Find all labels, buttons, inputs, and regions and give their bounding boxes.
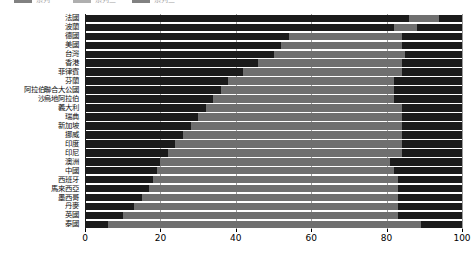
x-axis-tick-label-20: 20 bbox=[155, 233, 166, 243]
bar-segment-2 bbox=[421, 221, 462, 229]
bar-row[interactable] bbox=[85, 68, 462, 77]
legend-swatch-icon bbox=[73, 0, 91, 3]
bar-segment-2 bbox=[394, 77, 462, 85]
x-axis-tick-0 bbox=[85, 229, 86, 232]
bar-segment-1 bbox=[134, 203, 398, 211]
legend-item-2[interactable]: 系列三 bbox=[132, 0, 175, 4]
bar-segment-2 bbox=[390, 158, 462, 166]
legend-item-1[interactable]: 系列二 bbox=[73, 0, 116, 4]
chart-container: 系列一系列二系列三 法國波蘭德國美國台灣香港菲律賓芬蘭阿拉伯聯合大公國沙烏地阿拉… bbox=[0, 0, 471, 257]
bar-segment-0 bbox=[85, 122, 191, 130]
bar-segment-2 bbox=[402, 104, 462, 112]
gridline-100 bbox=[462, 14, 463, 229]
bar-row[interactable] bbox=[85, 23, 462, 32]
bar-segment-1 bbox=[228, 77, 394, 85]
bar-row[interactable] bbox=[85, 166, 462, 175]
bar-segment-1 bbox=[213, 95, 394, 103]
bar-segment-2 bbox=[398, 176, 462, 184]
bar-row[interactable] bbox=[85, 184, 462, 193]
bar-row[interactable] bbox=[85, 95, 462, 104]
x-axis-tick-80 bbox=[387, 229, 388, 232]
bar-row[interactable] bbox=[85, 41, 462, 50]
bar-row[interactable] bbox=[85, 59, 462, 68]
y-axis-category-labels: 法國波蘭德國美國台灣香港菲律賓芬蘭阿拉伯聯合大公國沙烏地阿拉伯義大利瑞典新加坡挪… bbox=[0, 14, 82, 229]
bar-segment-0 bbox=[85, 24, 394, 32]
bar-segment-2 bbox=[402, 140, 462, 148]
bar-segment-2 bbox=[402, 59, 462, 67]
x-axis-tick-label-100: 100 bbox=[453, 233, 470, 243]
bar-segment-1 bbox=[191, 122, 402, 130]
bar-row[interactable] bbox=[85, 86, 462, 95]
bar-row[interactable] bbox=[85, 211, 462, 220]
bar-segment-2 bbox=[394, 167, 462, 175]
bar-segment-2 bbox=[402, 149, 462, 157]
bar-segment-1 bbox=[274, 51, 406, 59]
legend-label: 系列三 bbox=[154, 0, 175, 4]
x-axis: 020406080100 bbox=[85, 229, 462, 253]
bar-segment-1 bbox=[221, 86, 394, 94]
bar-segment-2 bbox=[402, 33, 462, 41]
bar-segment-1 bbox=[258, 59, 401, 67]
bar-segment-0 bbox=[85, 203, 134, 211]
bar-segment-0 bbox=[85, 149, 168, 157]
bar-row[interactable] bbox=[85, 157, 462, 166]
bar-segment-0 bbox=[85, 42, 281, 50]
y-axis-label-17: 中國 bbox=[0, 166, 82, 175]
bar-segment-0 bbox=[85, 77, 228, 85]
bar-segment-2 bbox=[417, 24, 462, 32]
x-axis-tick-label-40: 40 bbox=[230, 233, 241, 243]
bar-segment-0 bbox=[85, 51, 274, 59]
bar-segment-0 bbox=[85, 59, 258, 67]
bar-segment-1 bbox=[157, 167, 395, 175]
bar-row[interactable] bbox=[85, 14, 462, 23]
bar-segment-2 bbox=[402, 68, 462, 76]
legend-label: 系列二 bbox=[95, 0, 116, 4]
y-axis-label-13: 挪威 bbox=[0, 130, 82, 139]
bar-row[interactable] bbox=[85, 50, 462, 59]
x-axis-tick-40 bbox=[236, 229, 237, 232]
legend-swatch-icon bbox=[14, 0, 32, 3]
bar-segment-0 bbox=[85, 104, 206, 112]
legend-swatch-icon bbox=[132, 0, 150, 3]
bar-row[interactable] bbox=[85, 193, 462, 202]
bar-row[interactable] bbox=[85, 220, 462, 229]
y-axis-label-15: 印尼 bbox=[0, 148, 82, 157]
x-axis-tick-label-80: 80 bbox=[381, 233, 392, 243]
bar-segment-2 bbox=[398, 212, 462, 220]
bar-segment-2 bbox=[402, 113, 462, 121]
bar-segment-2 bbox=[405, 51, 462, 59]
x-axis-tick-label-60: 60 bbox=[305, 233, 316, 243]
bar-segment-0 bbox=[85, 185, 149, 193]
bar-series-group bbox=[85, 14, 462, 229]
bar-row[interactable] bbox=[85, 104, 462, 113]
bar-segment-0 bbox=[85, 158, 160, 166]
bar-segment-0 bbox=[85, 167, 157, 175]
bar-row[interactable] bbox=[85, 121, 462, 130]
bar-segment-0 bbox=[85, 176, 153, 184]
bar-row[interactable] bbox=[85, 32, 462, 41]
bar-segment-1 bbox=[108, 221, 421, 229]
bar-segment-0 bbox=[85, 221, 108, 229]
bar-segment-1 bbox=[142, 194, 398, 202]
bar-segment-0 bbox=[85, 68, 243, 76]
bar-row[interactable] bbox=[85, 77, 462, 86]
legend-item-0[interactable]: 系列一 bbox=[14, 0, 57, 4]
bar-segment-1 bbox=[289, 33, 402, 41]
bar-segment-1 bbox=[281, 42, 402, 50]
bar-segment-2 bbox=[398, 203, 462, 211]
bar-segment-1 bbox=[160, 158, 390, 166]
bar-row[interactable] bbox=[85, 175, 462, 184]
bar-segment-0 bbox=[85, 194, 142, 202]
bar-row[interactable] bbox=[85, 148, 462, 157]
bar-row[interactable] bbox=[85, 130, 462, 139]
bar-row[interactable] bbox=[85, 139, 462, 148]
bar-row[interactable] bbox=[85, 202, 462, 211]
y-axis-label-14: 印度 bbox=[0, 139, 82, 148]
bar-segment-1 bbox=[183, 131, 402, 139]
bar-segment-1 bbox=[168, 149, 402, 157]
bar-segment-2 bbox=[402, 122, 462, 130]
bar-row[interactable] bbox=[85, 112, 462, 121]
x-axis-tick-60 bbox=[311, 229, 312, 232]
bar-segment-0 bbox=[85, 33, 289, 41]
y-axis-label-23: 泰國 bbox=[0, 220, 82, 229]
